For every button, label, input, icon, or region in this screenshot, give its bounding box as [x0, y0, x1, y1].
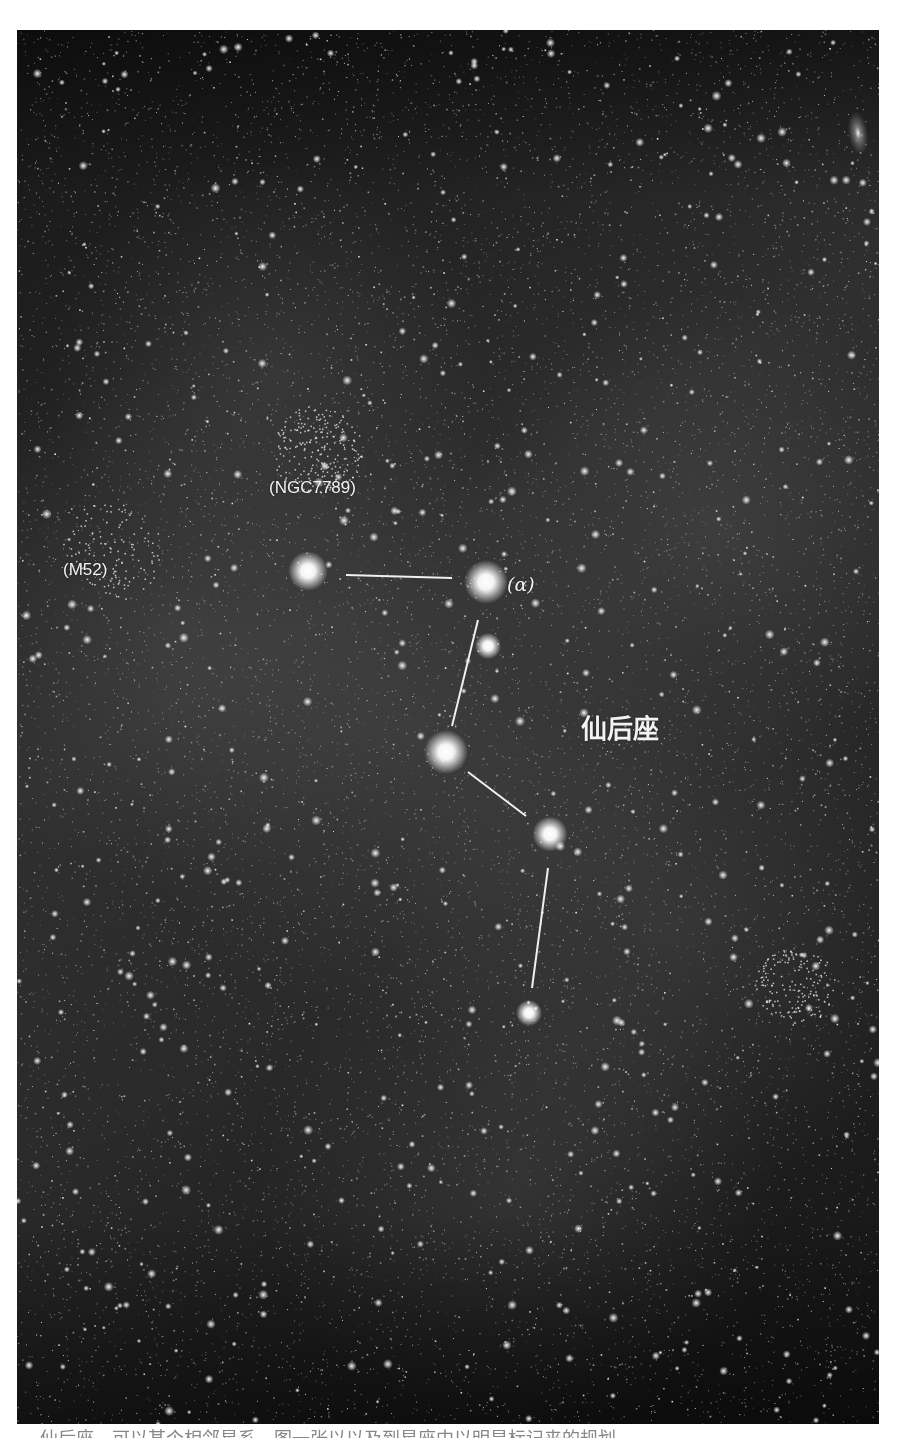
constellation-line	[468, 772, 526, 816]
label-constellation-cassiopeia: 仙后座	[581, 708, 659, 745]
label-ngc7789: (NGC7789)	[269, 478, 356, 498]
figure-caption: 仙后座、可以某个相邻星系，图一张以以及到星座中以明显标记来的规划	[40, 1428, 840, 1438]
label-m52: (M52)	[63, 560, 107, 580]
label-alpha: (α)	[507, 573, 535, 595]
constellation-line	[346, 575, 452, 578]
constellation-lines	[17, 30, 879, 1424]
constellation-line	[452, 620, 478, 726]
star-field-photo: (NGC7789) (M52) (α) 仙后座	[17, 30, 879, 1424]
constellation-line	[532, 868, 548, 988]
